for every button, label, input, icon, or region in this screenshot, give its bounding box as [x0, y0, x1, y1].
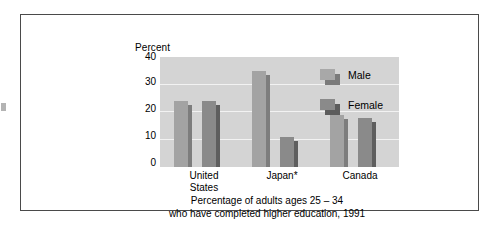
bar-japan-female[interactable]: [280, 137, 298, 167]
bar-face: [252, 71, 266, 167]
legend-item-male[interactable]: Male: [320, 67, 416, 93]
x-axis-labels: United States Japan* Canada: [160, 170, 399, 196]
legend-label-female: Female: [348, 99, 383, 111]
y-tick-20: 20: [145, 104, 156, 114]
bar-chart-figure: Percent 40 30 20 10 0: [134, 42, 404, 217]
bar-united-states-female[interactable]: [202, 101, 220, 167]
legend-swatch-female-icon: [320, 99, 340, 115]
legend-label-male: Male: [348, 69, 371, 81]
caption-line-1: Percentage of adults ages 25 – 34: [132, 194, 402, 207]
page-edge-artifact: [1, 103, 6, 111]
legend-swatch-male-icon: [320, 69, 340, 85]
y-tick-30: 30: [145, 77, 156, 87]
bar-united-states-male[interactable]: [174, 101, 192, 167]
bar-group-japan: [252, 57, 312, 167]
bar-face: [202, 101, 216, 167]
bar-side: [266, 75, 270, 167]
legend-item-female[interactable]: Female: [320, 97, 416, 123]
x-label-japan: Japan*: [244, 170, 320, 182]
x-label-united-states: United States: [166, 170, 242, 193]
bar-side: [294, 141, 298, 167]
y-tick-40: 40: [145, 52, 156, 62]
figure-caption: Percentage of adults ages 25 – 34 who ha…: [132, 194, 402, 220]
x-label-canada: Canada: [322, 170, 398, 182]
bar-face: [174, 101, 188, 167]
y-tick-0: 0: [150, 158, 156, 168]
bar-japan-male[interactable]: [252, 71, 270, 167]
y-axis: 40 30 20 10 0: [134, 57, 156, 167]
y-tick-10: 10: [145, 131, 156, 141]
bar-side: [216, 105, 220, 167]
bar-face: [280, 137, 294, 167]
figure-frame: Percent 40 30 20 10 0: [20, 14, 479, 211]
legend: Male Female: [320, 67, 416, 127]
bar-group-united-states: [174, 57, 234, 167]
plot-wrapper: 40 30 20 10 0: [134, 57, 399, 167]
bar-side: [372, 122, 376, 168]
plot-area: Male Female: [160, 57, 399, 167]
caption-line-2: who have completed higher education, 199…: [132, 207, 402, 220]
bar-side: [188, 105, 192, 167]
